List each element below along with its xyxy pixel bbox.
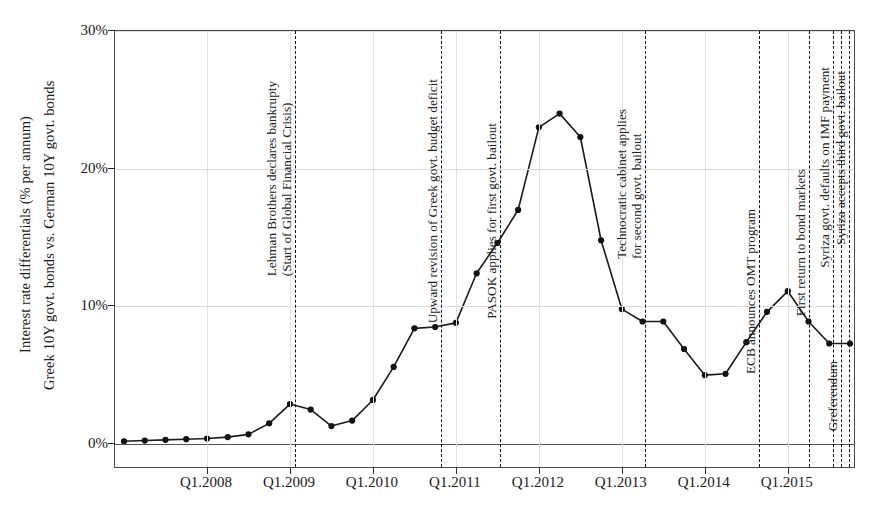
data-point-marker: [328, 423, 334, 429]
x-axis-tick-mark: [788, 467, 789, 474]
event-label-line1: PASOK applies for first govt. bailout: [485, 123, 500, 319]
event-label-line1: Syriza govt. defaults on IMF payment: [818, 67, 833, 268]
x-axis-tick-label: Q1.2009: [263, 474, 315, 491]
event-label-pasok: PASOK applies for first govt. bailout: [485, 123, 500, 319]
gridline-horizontal: [115, 31, 854, 32]
y-axis-tick-label: 0%: [56, 435, 108, 452]
event-label-technocratic: Technocratic cabinet appliesfor second g…: [615, 109, 645, 259]
data-point-marker: [577, 134, 583, 140]
data-point-marker: [557, 111, 563, 117]
event-label-lehman: Lehman Brothers declares bankrupty(Start…: [265, 81, 295, 276]
y-axis-tick-mark: [108, 168, 115, 169]
data-point-marker: [266, 420, 272, 426]
data-point-marker: [308, 406, 314, 412]
data-point-marker: [225, 434, 231, 440]
event-label-line1: Technocratic cabinet applies: [615, 109, 630, 259]
data-point-marker: [391, 364, 397, 370]
event-label-line1: ECB announces OMT program: [744, 209, 759, 374]
data-point-marker: [598, 237, 604, 243]
x-axis-tick-label: Q1.2013: [595, 474, 647, 491]
data-point-marker: [515, 207, 521, 213]
event-label-line1: Lehman Brothers declares bankrupty: [265, 81, 280, 276]
event-label-deficit: Upward revision of Greek govt. budget de…: [426, 79, 441, 323]
event-line-technocratic: [645, 31, 646, 467]
x-axis-tick-label: Q1.2011: [429, 474, 481, 491]
x-axis-tick-mark: [539, 467, 540, 474]
event-line-bondmarkets: [809, 31, 810, 467]
x-axis-tick-mark: [207, 467, 208, 474]
x-axis-tick-labels: Q1.2008Q1.2009Q1.2010Q1.2011Q1.2012Q1.20…: [114, 474, 855, 504]
x-axis-tick-label: Q1.2010: [346, 474, 398, 491]
x-axis-tick-label: Q1.2015: [761, 474, 813, 491]
gridline-vertical: [207, 31, 208, 467]
event-line-pasok: [500, 31, 501, 467]
x-axis-tick-mark: [290, 467, 291, 474]
event-line-lehman: [295, 31, 296, 467]
gridline-vertical: [373, 31, 374, 467]
gridline-vertical: [788, 31, 789, 467]
gridline-vertical: [705, 31, 706, 467]
event-label-omt: ECB announces OMT program: [744, 209, 759, 374]
chart-figure: Interest rate differentials (% per annum…: [0, 0, 880, 521]
y-axis-tick-label: 30%: [56, 22, 108, 39]
event-line-omt: [759, 31, 760, 467]
event-label-imfdefault: Syriza govt. defaults on IMF payment: [818, 67, 833, 268]
event-label-line1: Greferendum: [826, 361, 841, 431]
y-axis-tick-label: 10%: [56, 297, 108, 314]
event-label-line1: Upward revision of Greek govt. budget de…: [426, 79, 441, 323]
y-axis-tick-mark: [108, 305, 115, 306]
data-point-marker: [826, 340, 832, 346]
x-axis-tick-label: Q1.2012: [512, 474, 564, 491]
data-point-marker: [474, 270, 480, 276]
data-point-marker: [162, 437, 168, 443]
data-point-marker: [349, 418, 355, 424]
x-axis-tick-label: Q1.2008: [180, 474, 232, 491]
gridline-vertical: [456, 31, 457, 467]
event-label-greferendum: Greferendum: [826, 361, 841, 431]
data-point-marker: [183, 436, 189, 442]
y-axis-tick-mark: [108, 443, 115, 444]
event-label-thirdbailout: Syriza accepts third govt. bailout: [834, 71, 849, 245]
x-axis-tick-mark: [456, 467, 457, 474]
y-axis-tick-labels: 0%10%20%30%: [56, 0, 108, 521]
plot-area: Lehman Brothers declares bankrupty(Start…: [114, 30, 855, 468]
data-point-marker: [245, 431, 251, 437]
x-axis-tick-mark: [622, 467, 623, 474]
data-point-marker: [142, 437, 148, 443]
event-label-bondmarkets: First return to bond markets: [794, 169, 809, 316]
event-label-line2: (Start of Global Financial Crisis): [280, 81, 295, 276]
x-axis-tick-label: Q1.2014: [678, 474, 730, 491]
data-point-marker: [432, 324, 438, 330]
data-point-marker: [411, 325, 417, 331]
x-axis-tick-mark: [373, 467, 374, 474]
y-axis-title-line1: Interest rate differentials (% per annum…: [14, 0, 36, 470]
data-point-marker: [764, 309, 770, 315]
y-axis-tick-label: 20%: [56, 159, 108, 176]
data-point-marker: [660, 318, 666, 324]
event-label-line2: for second govt. bailout: [630, 109, 645, 259]
event-label-line1: Syriza accepts third govt. bailout: [834, 71, 849, 245]
y-axis-tick-mark: [108, 30, 115, 31]
event-line-deficit: [441, 31, 442, 467]
gridline-vertical: [539, 31, 540, 467]
x-axis-tick-mark: [705, 467, 706, 474]
data-point-marker: [722, 371, 728, 377]
zero-baseline: [115, 444, 854, 445]
event-label-line1: First return to bond markets: [794, 169, 809, 316]
data-point-marker: [681, 346, 687, 352]
